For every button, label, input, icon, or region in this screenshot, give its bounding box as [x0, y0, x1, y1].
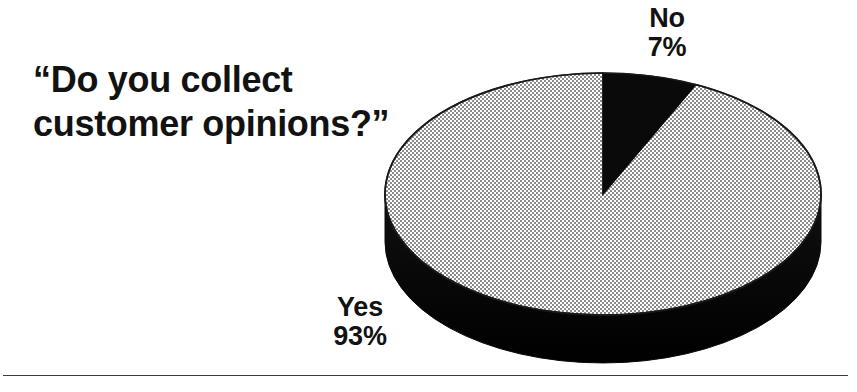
pie-label-no: No 7%	[612, 4, 722, 62]
pie-chart-graphic	[0, 0, 857, 392]
pie-label-yes: Yes 93%	[305, 293, 415, 351]
chart-canvas: “Do you collect customer opinions?”	[0, 0, 857, 392]
pie-chart	[0, 0, 857, 392]
footer-divider	[3, 375, 848, 376]
